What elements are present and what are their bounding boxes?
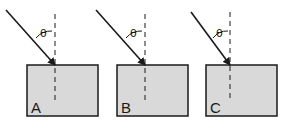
theta-label-c: θ bbox=[216, 27, 223, 40]
block-label-a: A bbox=[31, 99, 41, 116]
panel-a: θ A bbox=[6, 10, 98, 116]
block-label-b: B bbox=[121, 99, 131, 116]
theta-label-b: θ bbox=[130, 27, 137, 40]
incident-ray-c bbox=[191, 12, 230, 65]
refraction-diagram: θ A θ B θ C bbox=[0, 0, 289, 130]
theta-label-a: θ bbox=[40, 27, 47, 40]
incident-ray-a bbox=[6, 10, 55, 65]
panel-b: θ B bbox=[96, 10, 188, 116]
block-label-c: C bbox=[210, 99, 221, 116]
incident-ray-b bbox=[96, 10, 145, 65]
panel-c: θ C bbox=[191, 12, 277, 116]
